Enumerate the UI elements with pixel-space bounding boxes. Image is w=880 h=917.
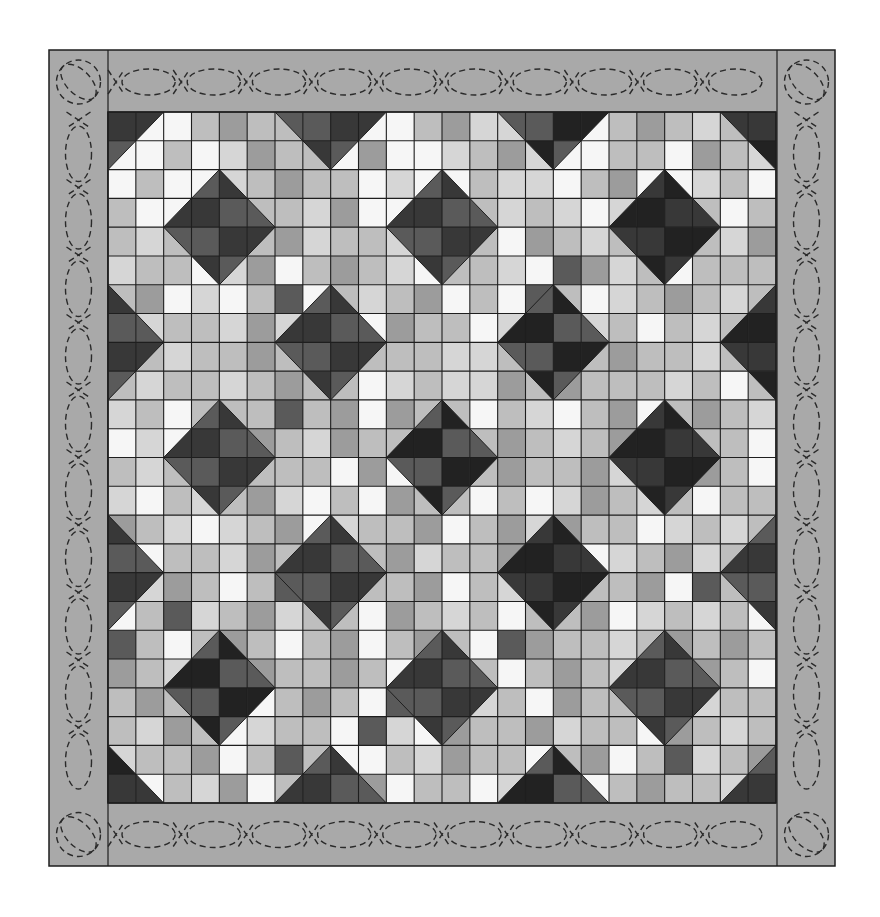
quilt-cell xyxy=(331,198,359,227)
quilt-cell xyxy=(303,400,331,429)
quilt-cell xyxy=(219,112,247,141)
quilt-cell xyxy=(553,717,581,746)
quilt-cell xyxy=(164,112,192,141)
quilt-cell xyxy=(748,486,776,515)
quilt-cell xyxy=(414,544,442,573)
quilt-cell xyxy=(303,170,331,199)
quilt-cell xyxy=(386,774,414,803)
quilt-cell xyxy=(192,774,220,803)
quilt-cell xyxy=(192,371,220,400)
quilt-cell xyxy=(247,285,275,314)
quilt-cell xyxy=(386,371,414,400)
quilt-cell xyxy=(609,141,637,170)
quilt-cell xyxy=(414,601,442,630)
quilt-cell xyxy=(442,774,470,803)
quilt-cell xyxy=(386,342,414,371)
quilt-cell xyxy=(164,285,192,314)
quilt-cell xyxy=(609,544,637,573)
quilt-cell xyxy=(331,630,359,659)
quilt-cell xyxy=(748,458,776,487)
quilt-cell xyxy=(609,400,637,429)
quilt-cell xyxy=(219,141,247,170)
quilt-cell xyxy=(275,429,303,458)
quilt-cell xyxy=(609,515,637,544)
quilt-cell xyxy=(720,601,748,630)
quilt-cell xyxy=(720,400,748,429)
quilt-cell xyxy=(331,688,359,717)
quilt-cell xyxy=(359,198,387,227)
quilt-cell xyxy=(359,429,387,458)
quilt-cell xyxy=(498,198,526,227)
quilt-cell xyxy=(414,573,442,602)
quilt-cell xyxy=(637,745,665,774)
quilt-cell xyxy=(720,486,748,515)
quilt-cell xyxy=(359,170,387,199)
quilt-cell xyxy=(164,256,192,285)
quilt-cell xyxy=(219,774,247,803)
quilt-cell xyxy=(108,659,136,688)
quilt-cell xyxy=(665,314,693,343)
quilt-cell xyxy=(414,745,442,774)
quilt-cell xyxy=(637,314,665,343)
quilt-cell xyxy=(164,486,192,515)
quilt-cell xyxy=(108,630,136,659)
quilt-cell xyxy=(693,112,721,141)
quilt-cell xyxy=(526,659,554,688)
quilt-cell xyxy=(359,285,387,314)
quilt-cell xyxy=(136,745,164,774)
quilt-cell xyxy=(693,515,721,544)
quilt-cell xyxy=(526,198,554,227)
quilt-cell xyxy=(442,112,470,141)
quilt-cell xyxy=(498,429,526,458)
quilt-cell xyxy=(693,486,721,515)
quilt-cell xyxy=(247,400,275,429)
quilt-cell xyxy=(331,256,359,285)
quilt-cell xyxy=(693,371,721,400)
quilt-cell xyxy=(303,688,331,717)
quilt-cell xyxy=(637,112,665,141)
quilt-cell xyxy=(192,112,220,141)
quilt-cell xyxy=(136,400,164,429)
quilt-cell xyxy=(581,745,609,774)
quilt-cell xyxy=(609,601,637,630)
quilt-cell xyxy=(637,285,665,314)
quilt-cell xyxy=(693,170,721,199)
quilt-cell xyxy=(470,717,498,746)
quilt-cell xyxy=(498,285,526,314)
quilt-cell xyxy=(359,141,387,170)
quilt-cell xyxy=(498,141,526,170)
quilt-cell xyxy=(748,429,776,458)
quilt-cell xyxy=(386,170,414,199)
quilt-cell xyxy=(414,285,442,314)
quilt-cell xyxy=(609,314,637,343)
quilt-cell xyxy=(136,285,164,314)
quilt-cell xyxy=(219,285,247,314)
quilt-cell xyxy=(219,745,247,774)
quilt-cell xyxy=(748,170,776,199)
quilt-cell xyxy=(192,515,220,544)
quilt-cell xyxy=(386,314,414,343)
quilt-cell xyxy=(414,314,442,343)
quilt-cell xyxy=(526,486,554,515)
quilt-cell xyxy=(526,688,554,717)
quilt-cell xyxy=(498,486,526,515)
quilt-cell xyxy=(470,544,498,573)
quilt-cell xyxy=(498,601,526,630)
quilt-cell xyxy=(609,285,637,314)
quilt-cell xyxy=(359,688,387,717)
quilt-cell xyxy=(108,400,136,429)
quilt-cell xyxy=(359,227,387,256)
quilt-cell xyxy=(553,659,581,688)
quilt-cell xyxy=(720,745,748,774)
quilt-cell xyxy=(108,717,136,746)
quilt-cell xyxy=(275,717,303,746)
quilt-cell xyxy=(581,458,609,487)
quilt-cell xyxy=(442,745,470,774)
quilt-cell xyxy=(359,717,387,746)
quilt-cell xyxy=(637,371,665,400)
quilt-cell xyxy=(609,630,637,659)
quilt-cell xyxy=(609,573,637,602)
quilt-cell xyxy=(720,429,748,458)
quilt-cell xyxy=(609,342,637,371)
quilt-cell xyxy=(386,486,414,515)
